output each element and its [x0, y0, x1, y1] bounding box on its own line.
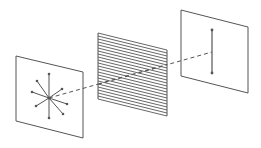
arrowhead-icon	[36, 80, 39, 83]
arrowhead-icon	[31, 91, 34, 94]
panel-frame	[181, 10, 248, 93]
arrowhead-icon	[48, 73, 51, 76]
polarizer-filter	[98, 33, 167, 116]
arrowhead-icon	[66, 103, 69, 106]
arrowhead-icon	[61, 88, 64, 91]
arrowhead-icon	[35, 105, 38, 108]
unpolarized-light-panel	[16, 56, 83, 138]
diagram-canvas	[0, 0, 261, 148]
origin-dot	[47, 96, 50, 99]
polarized-light-panel	[181, 10, 248, 93]
e-field-vector	[49, 89, 62, 98]
e-field-vector	[36, 98, 49, 106]
arrowhead-icon	[48, 117, 51, 120]
arrowhead-icon	[62, 113, 65, 116]
arrowhead-down-icon	[211, 72, 214, 75]
polarization-diagram	[0, 0, 261, 148]
arrowhead-up-icon	[211, 29, 214, 32]
